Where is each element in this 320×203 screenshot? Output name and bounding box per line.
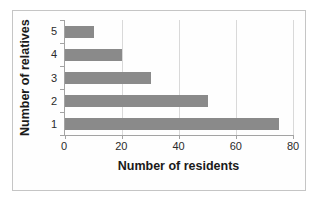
bar-row: [65, 112, 293, 135]
gridline: [293, 20, 294, 135]
x-tick-mark: [122, 135, 123, 139]
bar: [65, 118, 279, 130]
x-axis-title: Number of residents: [64, 159, 293, 173]
y-tick-mark: [60, 66, 64, 67]
category-labels: 54321: [13, 20, 57, 136]
category-label: 4: [13, 43, 57, 66]
y-tick-mark: [60, 112, 64, 113]
bar: [65, 95, 208, 107]
bar-rows: [65, 20, 293, 135]
category-label: 1: [13, 113, 57, 136]
bar-row: [65, 43, 293, 66]
bar: [65, 49, 122, 61]
y-tick-mark: [60, 89, 64, 90]
y-tick-mark: [60, 135, 64, 136]
x-tick-label: 20: [115, 140, 127, 152]
y-tick-mark: [60, 20, 64, 21]
bar-row: [65, 20, 293, 43]
plot-area: [64, 20, 293, 136]
x-tick-label: 40: [172, 140, 184, 152]
x-tick-mark: [179, 135, 180, 139]
bar-row: [65, 89, 293, 112]
y-tick-mark: [60, 43, 64, 44]
x-tick-mark: [236, 135, 237, 139]
x-tick-labels: 020406080: [64, 140, 293, 153]
x-tick-label: 80: [287, 140, 299, 152]
category-label: 3: [13, 66, 57, 89]
x-tick-mark: [65, 135, 66, 139]
bar: [65, 26, 94, 38]
x-tick-mark: [293, 135, 294, 139]
x-tick-label: 0: [61, 140, 67, 152]
bar: [65, 72, 151, 84]
chart-frame: Number of relatives 54321 020406080 Numb…: [12, 10, 306, 191]
x-tick-label: 60: [230, 140, 242, 152]
category-label: 5: [13, 20, 57, 43]
category-label: 2: [13, 90, 57, 113]
bar-row: [65, 66, 293, 89]
